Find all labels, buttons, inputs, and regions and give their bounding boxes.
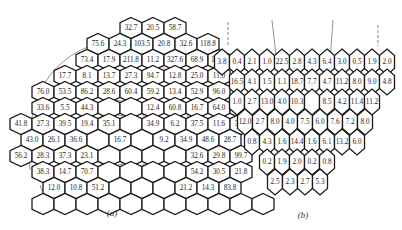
a-cell-value: 70.7 [81,168,94,176]
b-cell-value: 0.4 [233,58,242,66]
a-cell-value: 19.4 [81,120,94,128]
a-hex-cell [76,194,98,215]
b-cell-value: 4.1 [248,78,257,86]
b-cell-value: 4.0 [286,118,295,126]
b-cell-value: 2.1 [248,58,257,66]
a-cell-value: 37.5 [191,120,204,128]
a-cell-value: 29.8 [213,152,226,160]
a-cell-value: 32.7 [125,24,138,32]
a-cell-value: 13.4 [169,88,182,96]
a-cell-value: 118.8 [200,40,216,48]
a-cell-value: 35.1 [103,120,116,128]
a-cell-value: 51.2 [92,184,105,192]
a-cell-value: 48.6 [202,136,215,144]
a-cell-value: 28.7 [224,136,237,144]
a-cell-value: 27.3 [125,72,138,80]
a-cell-value: 33.6 [37,104,50,112]
a-cell-value: 27.3 [37,120,50,128]
a-cell-value: 24.3 [114,40,127,48]
b-cell-value: 1.6 [308,138,317,146]
a-hex-cell [120,194,142,215]
b-cell-value: 8.5 [323,98,332,106]
b-cell-value: 4.0 [278,98,287,106]
b-cell-value: 1.9 [278,158,287,166]
a-cell-value: 53.5 [59,88,72,96]
b-cell-value: 2.7 [256,118,265,126]
b-cell-value: 4.2 [338,98,347,106]
a-hex-cell [142,194,164,215]
a-cell-value: 60.4 [125,88,138,96]
b-cell-value: 4.8 [383,78,392,86]
b-cell-value: 6.4 [323,58,332,66]
a-cell-value: 26.1 [48,136,61,144]
a-cell-value: 6.2 [171,120,180,128]
b-cell-value: 0.8 [323,158,332,166]
a-cell-value: 20.5 [147,24,160,32]
a-cell-value: 8.1 [83,72,92,80]
a-cell-value: 17.9 [103,56,116,64]
b-cell-value: 13.0 [261,98,274,106]
a-cell-value: 28.6 [103,88,116,96]
caption-a: (a) [107,208,118,218]
a-cell-value: 32.6 [180,40,193,48]
b-cell-value: 10.3 [291,98,304,106]
a-cell-value: 75.6 [92,40,105,48]
b-cell-value: 1.0 [263,58,272,66]
a-cell-value: 9.2 [160,136,169,144]
a-cell-value: 32.6 [191,152,204,160]
b-cell-value: 13.2 [336,138,349,146]
a-cell-value: 20.8 [158,40,171,48]
b-cell-value: 1.5 [263,78,272,86]
a-cell-value: 60.8 [169,104,182,112]
b-cell-value: 7.6 [331,118,340,126]
a-cell-value: 41.8 [15,120,28,128]
a-cell-value: 37.3 [59,152,72,160]
b-cell-value: 4.3 [263,138,272,146]
a-cell-value: 25.0 [191,72,204,80]
b-cell-value: 0.2 [263,158,272,166]
a-cell-value: 44.3 [81,104,94,112]
a-cell-value: 96.0 [213,88,226,96]
a-cell-value: 58.7 [169,24,182,32]
b-cell-value: 8.0 [271,118,280,126]
a-hex-cell [54,194,76,215]
b-cell-value: 12.0 [239,118,252,126]
b-cell-value: 2.7 [301,178,310,186]
a-cell-value: 16.7 [191,104,204,112]
b-cell-value: 8.0 [361,118,370,126]
b-cell-value: 22.5 [276,58,289,66]
a-hex-cell [230,194,252,215]
a-cell-value: 34.9 [147,120,160,128]
a-hex-cell [32,194,54,215]
a-cell-value: 43.0 [26,136,39,144]
b-cell-value: 6.0 [353,138,362,146]
b-cell-value: 3.8 [218,58,227,66]
a-cell-value: 38.3 [37,168,50,176]
b-cell-value: 2.8 [293,58,302,66]
a-cell-value: 64.0 [213,104,226,112]
b-cell-value: 1.1 [278,78,287,86]
b-cell-value: 0.8 [248,138,257,146]
b-cell-value: 4.7 [323,78,332,86]
a-cell-value: 21.2 [180,184,193,192]
b-cell-value: 2.0 [293,158,302,166]
b-cell-value: 5.3 [316,178,325,186]
b-cell-value: 1.0 [233,98,242,106]
a-cell-value: 36.6 [70,136,83,144]
a-cell-value: 14.3 [202,184,215,192]
a-cell-value: 73.4 [81,56,94,64]
a-cell-value: 12.0 [48,184,61,192]
hexagonal-grid-figure: 32.720.558.775.624.3103.520.832.6118.873… [0,0,402,230]
a-cell-value: 99.7 [235,152,248,160]
a-cell-value: 12.4 [147,104,160,112]
a-cell-value: 13.7 [103,72,116,80]
b-cell-value: 7.2 [346,118,355,126]
b-cell-value: 2.3 [286,178,295,186]
a-hex-cell [208,194,230,215]
a-hex-cell [186,194,208,215]
caption-b: (b) [298,210,309,220]
a-cell-value: 11.2 [147,56,160,64]
a-cell-value: 30.5 [213,168,226,176]
a-cell-value: 54.2 [191,168,204,176]
a-cell-value: 28.3 [37,152,50,160]
